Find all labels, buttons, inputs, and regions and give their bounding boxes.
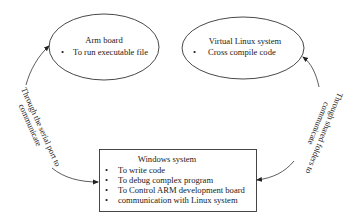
windows-bullet-1: To write code — [118, 165, 165, 175]
windows-bullet-4: communication with Linux system — [118, 195, 238, 205]
windows-bullet-2: To debug complex program — [118, 175, 213, 185]
arm-board-title: Arm board — [85, 35, 123, 45]
serial-arrow-to-arm — [26, 46, 49, 85]
virtual-linux-bullet-1: Cross compile code — [208, 47, 276, 57]
windows-system-title: Windows system — [138, 154, 197, 164]
arm-board-node: Arm board • To run executable file — [49, 14, 159, 80]
serial-port-edge: Through the serial port to communicate — [11, 46, 98, 182]
shared-arrow-to-linux — [303, 57, 319, 87]
windows-bullet-glyph-4: • — [105, 195, 108, 205]
shared-arrow-to-windows — [257, 161, 294, 180]
windows-bullet-glyph-2: • — [105, 175, 108, 185]
system-diagram: Arm board • To run executable file Virtu… — [0, 0, 346, 224]
virtual-linux-title: Virtual Linux system — [209, 36, 282, 46]
windows-system-node: Windows system • To write code • To debu… — [100, 150, 257, 212]
arm-board-bullet-1: To run executable file — [73, 47, 148, 57]
windows-bullet-glyph-1: • — [105, 165, 108, 175]
serial-edge-label-line1: Through the serial port to — [19, 86, 62, 168]
virtual-linux-bullet-glyph: • — [193, 47, 196, 57]
serial-arrow-to-windows — [52, 168, 98, 182]
windows-bullet-glyph-3: • — [105, 185, 108, 195]
virtual-linux-node: Virtual Linux system • Cross compile cod… — [182, 17, 304, 79]
windows-bullet-3: To Control ARM development board — [118, 185, 246, 195]
arm-board-bullet-glyph: • — [61, 47, 64, 57]
